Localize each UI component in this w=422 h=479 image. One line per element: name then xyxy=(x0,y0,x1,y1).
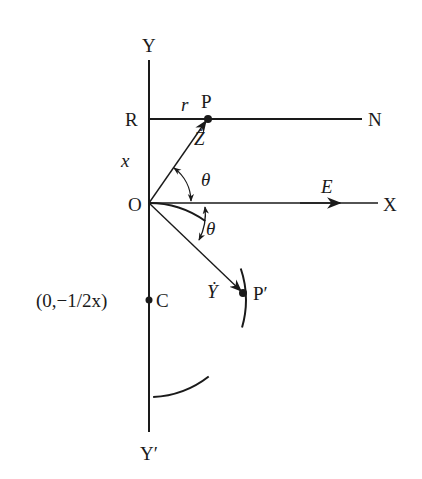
label-r: R xyxy=(125,109,138,130)
label-theta-lower: θ xyxy=(206,218,215,239)
geometry-diagram: Y Y′ R N P r Ż x θ O E X θ Ẏ P′ C (0,−1/… xyxy=(0,0,422,479)
diagram-canvas: Y Y′ R N P r Ż x θ O E X θ Ẏ P′ C (0,−1/… xyxy=(0,0,422,479)
label-o: O xyxy=(128,194,142,215)
theta-upper-arc-icon xyxy=(174,168,191,201)
label-p: P xyxy=(201,91,212,112)
label-y: Y xyxy=(142,35,156,56)
point-c-dot xyxy=(146,297,153,304)
label-theta-upper: θ xyxy=(201,169,210,190)
label-y-prime: Y′ xyxy=(140,443,158,464)
label-e: E xyxy=(320,176,333,197)
label-x-length: x xyxy=(120,150,130,171)
point-p-dot xyxy=(204,115,212,123)
theta-lower-arc-icon xyxy=(199,207,205,240)
label-c-coordinates: (0,−1/2x) xyxy=(36,290,107,312)
label-c: C xyxy=(156,290,169,311)
label-n: N xyxy=(368,109,382,130)
vector-op-prime xyxy=(149,203,241,291)
label-r-length: r xyxy=(181,94,189,115)
label-y-dot: Ẏ xyxy=(207,281,220,302)
label-p-prime: P′ xyxy=(253,283,268,304)
label-z-dot: Ż xyxy=(194,128,205,149)
point-p-prime-dot xyxy=(239,289,247,297)
label-x: X xyxy=(383,194,397,215)
